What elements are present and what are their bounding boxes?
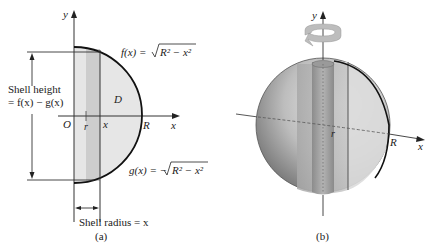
shell-radius-label: Shell radius = x	[79, 216, 149, 228]
g-label-radicand: R² − x²	[171, 164, 204, 176]
y-axis-label: y	[311, 9, 317, 21]
caption-b: (b)	[316, 230, 329, 243]
f-label-radicand: R² − x²	[159, 46, 192, 58]
region-d	[74, 47, 142, 183]
y-axis-label: y	[62, 8, 68, 20]
x-axis-label: x	[170, 119, 176, 131]
y-axis-arrow-icon	[71, 10, 77, 18]
R-label: R	[389, 136, 397, 148]
region-d-label: D	[113, 93, 122, 105]
shell-height-label-2: = f(x) − g(x)	[8, 96, 64, 109]
x-tick-label: x	[102, 118, 108, 130]
x-axis-label: x	[417, 140, 423, 152]
origin-label: O	[63, 118, 71, 130]
r-label: r	[331, 128, 335, 139]
arrow-down-icon	[30, 172, 35, 179]
arrow-up-icon	[30, 53, 35, 60]
panel-a-diagram: y Shell height = f(x) − g(x) O r x R x D…	[0, 0, 215, 245]
caption-a: (a)	[95, 230, 108, 243]
x-axis-left	[236, 114, 258, 117]
shell-height-label-1: Shell height	[8, 83, 61, 95]
g-label-lhs: g(x) = −	[129, 164, 167, 177]
y-axis-arrow-icon	[320, 11, 326, 19]
arrow-left-icon	[75, 206, 81, 210]
f-label-lhs: f(x) =	[121, 46, 146, 59]
R-label: R	[142, 119, 150, 131]
shell-strip	[86, 49, 100, 181]
r-label: r	[84, 121, 88, 132]
panel-b-diagram: y r R x (b)	[215, 0, 429, 245]
arrow-right-icon	[93, 206, 99, 210]
